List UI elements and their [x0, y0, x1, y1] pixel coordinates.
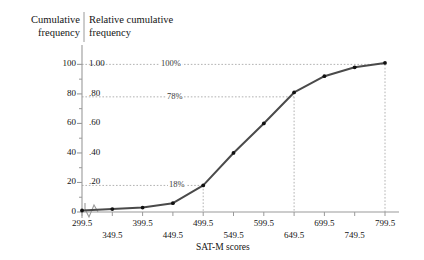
cumulative-frequency-chart: Cumulative frequency Relative cumulative… [0, 0, 424, 260]
data-curve [82, 63, 385, 211]
data-point-7 [292, 91, 296, 95]
annotation-label-2: 18% [168, 179, 186, 189]
annotation-label-0: 100% [160, 58, 182, 68]
data-point-8 [323, 74, 327, 78]
data-point-6 [262, 122, 266, 126]
y-tick-label-right-0: .20 [89, 176, 100, 186]
x-tick-label-8: 699.5 [309, 218, 339, 228]
y-tick-label-left-2: 40 [50, 147, 76, 157]
x-tick-label-6: 599.5 [249, 218, 279, 228]
x-tick-label-2: 399.5 [128, 218, 158, 228]
x-axis-title: SAT-M scores [196, 242, 250, 252]
annotation-label-1: 78% [166, 91, 184, 101]
y-tick-label-right-1: .40 [89, 147, 100, 157]
x-tick-label-5: 549.5 [219, 230, 249, 240]
data-point-0 [80, 209, 84, 213]
y-tick-label-left-1: 20 [50, 176, 76, 186]
y-tick-label-left-5: 100 [50, 58, 76, 68]
y-tick-label-right-3: .80 [89, 88, 100, 98]
y-tick-label-left-3: 60 [50, 117, 76, 127]
data-point-1 [110, 207, 114, 211]
x-tick-label-0: 299.5 [67, 218, 97, 228]
x-tick-label-3: 449.5 [158, 230, 188, 240]
data-point-9 [353, 65, 357, 69]
y-tick-label-left-0: 0 [50, 206, 76, 216]
x-tick-label-10: 799.5 [370, 218, 400, 228]
x-tick-label-9: 749.5 [340, 230, 370, 240]
data-point-2 [141, 206, 145, 210]
x-tick-label-7: 649.5 [279, 230, 309, 240]
data-point-3 [171, 201, 175, 205]
y-tick-label-left-4: 80 [50, 88, 76, 98]
data-point-4 [201, 184, 205, 188]
x-tick-label-4: 499.5 [188, 218, 218, 228]
data-point-5 [232, 151, 236, 155]
y-tick-label-right-2: .60 [89, 117, 100, 127]
data-point-10 [383, 61, 387, 65]
y-tick-label-right-4: 1.00 [89, 58, 105, 68]
x-tick-label-1: 349.5 [97, 230, 127, 240]
